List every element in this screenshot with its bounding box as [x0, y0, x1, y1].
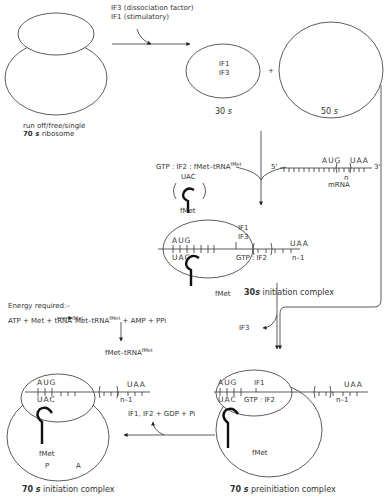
ribosome-word: ribosome — [42, 130, 75, 138]
plus-sign: + — [268, 67, 274, 75]
pre-codon: AUG — [218, 379, 237, 387]
ribosome-desc: run off/free/single — [23, 122, 85, 130]
mrna-stop-codon: UAA — [350, 157, 369, 165]
init-word: initiation complex — [43, 485, 115, 494]
pre-n1: n–1 — [336, 396, 348, 404]
formyl-product: fMet–tRNAfMet — [105, 346, 153, 357]
unit-s: s — [334, 107, 338, 116]
formyl-sup: fMet — [142, 347, 153, 353]
products-text: Met–tRNA — [75, 317, 109, 325]
ribosome-unit: s — [35, 130, 39, 138]
mrna-3prime: 3' — [374, 163, 380, 171]
init-label: 70 s initiation complex — [22, 486, 115, 494]
init-anticodon: UAC — [37, 396, 56, 404]
energy-products: Met–tRNAfMet + AMP + PPi — [75, 314, 166, 325]
energy-heading: Energy required:– — [8, 302, 70, 310]
c30-label: 30s initiation complex — [244, 289, 334, 297]
mrna-label: mRNA — [328, 181, 350, 189]
pre-size: 70 — [230, 485, 241, 494]
c30-if1: IF1 — [238, 224, 249, 233]
ribosome-70s-label: run off/free/single 70 s ribosome — [23, 122, 85, 138]
mrna-5prime: 5' — [271, 163, 277, 171]
dissociation-arrow — [112, 29, 190, 44]
factor-if3: IF3 (dissociation factor) — [111, 4, 193, 13]
ternary-text: GTP : IF2 : fMet–tRNA — [156, 163, 231, 171]
if1-in-30s: IF1 — [219, 60, 230, 69]
pre-word: preinitiation complex — [251, 485, 336, 494]
c30-stop: UAA — [290, 240, 309, 248]
if3-in-30s: IF3 — [219, 69, 230, 78]
unit-s: s — [228, 107, 232, 116]
ribosome-70s-shape — [5, 13, 107, 115]
products-rest: + AMP + PPi — [123, 317, 167, 325]
a-site: A — [76, 462, 81, 470]
ternary-label: GTP : IF2 : fMet–tRNAfMet — [156, 160, 242, 171]
subunit-30s-contents: IF1 IF3 — [219, 60, 230, 78]
pre-stop: UAA — [344, 381, 363, 389]
products-sup: fMet — [109, 315, 120, 321]
p-site: P — [45, 462, 49, 470]
c30-anticodon: UAC — [172, 254, 191, 262]
pre-unit: s — [244, 485, 249, 494]
subunit-50s-shape — [279, 22, 383, 118]
release-label: IF1, IF2 + GDP + Pi — [128, 410, 195, 418]
c30-word: initiation complex — [262, 288, 334, 297]
pre-gtp-if2: GTP : IF2 — [244, 396, 275, 404]
c30-fmet: fMet — [215, 290, 231, 298]
init-n1: n–1 — [120, 396, 132, 404]
ternary-fmet: fMet — [180, 207, 196, 215]
arrow-50s-to-preinitiation — [280, 85, 381, 349]
formyl-text: fMet–tRNA — [105, 349, 142, 357]
pre-if1: IF1 — [254, 379, 265, 387]
subunit-30s-label: 30 s — [215, 108, 232, 116]
diagram-canvas — [0, 0, 384, 498]
init-unit: s — [36, 485, 41, 494]
c30-if3: IF3 — [238, 233, 249, 242]
init-fmet: fMet — [39, 450, 55, 458]
ternary-sup: fMet — [231, 161, 242, 167]
c30-size: 30 — [244, 288, 255, 297]
pre-fmet: fMet — [252, 449, 268, 457]
c30-n1: n–1 — [292, 254, 304, 262]
c30-gtp-if2: GTP : IF2 — [236, 254, 267, 262]
ternary-anticodon: UAC — [181, 173, 196, 181]
c30-factors: IF1 IF3 — [238, 224, 249, 242]
c30-codon: AUG — [172, 237, 191, 245]
pre-label: 70 s preinitiation complex — [230, 486, 336, 494]
factor-if1: IF1 (stimulatory) — [111, 13, 193, 22]
subunit-50s-label: 50 s — [321, 108, 338, 116]
init-stop: UAA — [127, 381, 146, 389]
init-codon: AUG — [37, 379, 56, 387]
dissociation-factors: IF3 (dissociation factor) IF1 (stimulato… — [111, 4, 193, 22]
init-size: 70 — [22, 485, 33, 494]
reactants-text: ATP + Met + tRNA — [8, 317, 72, 325]
size-30: 30 — [215, 107, 225, 116]
c30-unit: s — [255, 288, 260, 297]
mrna-start-codon: AUG — [322, 157, 341, 165]
release-arrow — [124, 422, 215, 435]
arrow-30s-to-complex — [236, 131, 286, 205]
ribosome-size: 70 — [23, 130, 33, 138]
size-50: 50 — [321, 107, 331, 116]
pre-anticodon: UAC — [218, 396, 237, 404]
if3-release-label: IF3 — [239, 324, 250, 332]
energy-reactants: ATP + Met + tRNAfMet — [8, 314, 83, 325]
